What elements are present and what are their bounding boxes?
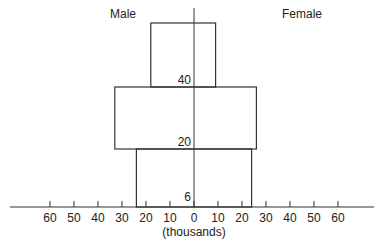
legend-female: Female	[282, 7, 322, 21]
tick-label: 0	[191, 211, 198, 225]
x-ticks: 6050403020100102030405060	[43, 201, 345, 225]
tick-label: 50	[307, 211, 321, 225]
tick-label: 40	[283, 211, 297, 225]
tick-label: 50	[67, 211, 81, 225]
population-pyramid-chart: 6050403020100102030405060 Male Female (t…	[0, 0, 381, 241]
bars	[115, 23, 257, 207]
age-label: 40	[178, 73, 192, 87]
tick-label: 10	[163, 211, 177, 225]
tick-label: 60	[43, 211, 57, 225]
x-axis-label: (thousands)	[162, 225, 225, 239]
legend-male: Male	[110, 7, 136, 21]
tick-label: 10	[211, 211, 225, 225]
tick-label: 20	[139, 211, 153, 225]
age-label: 20	[178, 135, 192, 149]
tick-label: 30	[259, 211, 273, 225]
age-label: 6	[184, 190, 191, 204]
age-labels: 62040	[178, 73, 192, 204]
tick-label: 30	[115, 211, 129, 225]
tick-label: 20	[235, 211, 249, 225]
tick-label: 40	[91, 211, 105, 225]
tick-label: 60	[331, 211, 345, 225]
